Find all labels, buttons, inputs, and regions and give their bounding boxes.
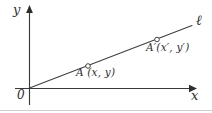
origin-label: 0 xyxy=(17,89,25,101)
x-axis-label: x xyxy=(191,89,199,102)
line-ell-label: ℓ xyxy=(196,13,202,27)
y-axis-label: y xyxy=(13,3,21,16)
line-ell xyxy=(30,26,193,89)
point-a-prime-label: A′(x′, y′) xyxy=(146,42,189,53)
coordinate-diagram-figure: y x 0 ℓ A (x, y) A′(x′, y′) xyxy=(0,0,212,113)
y-axis-arrowhead-icon xyxy=(26,5,33,13)
figure-canvas xyxy=(0,0,212,113)
point-a-label: A (x, y) xyxy=(76,67,115,78)
